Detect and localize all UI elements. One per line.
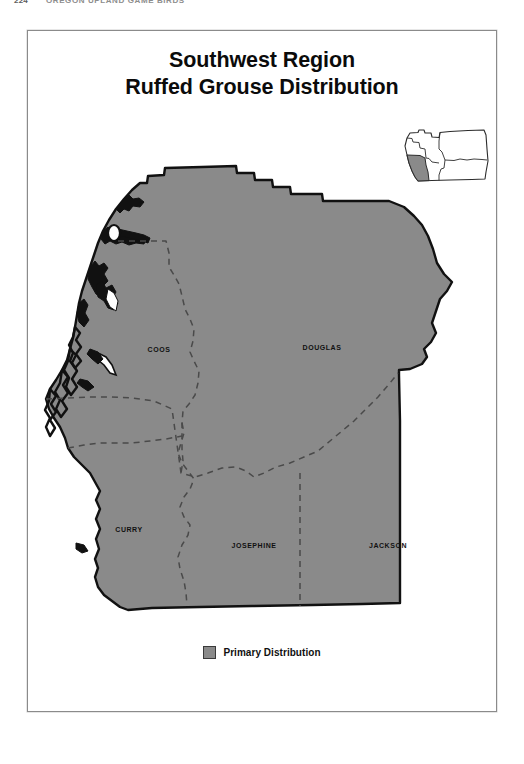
southwest-region-map: COOS DOUGLAS CURRY JOSEPHINE JACKSON [32, 121, 494, 621]
legend-swatch-primary-distribution [203, 646, 216, 659]
figure-frame: Southwest Region Ruffed Grouse Distribut… [27, 30, 497, 712]
county-label-josephine: JOSEPHINE [231, 542, 276, 549]
legend-label-primary-distribution: Primary Distribution [223, 647, 320, 658]
county-label-curry: CURRY [115, 526, 142, 533]
map-legend: Primary Distribution [28, 646, 496, 659]
county-label-jackson: JACKSON [369, 542, 407, 549]
page-header: 224 OREGON UPLAND GAME BIRDS [0, 0, 524, 8]
running-head: OREGON UPLAND GAME BIRDS [46, 0, 185, 5]
map-title-line-1: Southwest Region [169, 48, 355, 72]
county-label-douglas: DOUGLAS [303, 344, 342, 351]
map-title: Southwest Region Ruffed Grouse Distribut… [28, 47, 496, 101]
page-number: 224 [14, 0, 28, 5]
county-label-coos: COOS [148, 346, 171, 353]
map-title-line-2: Ruffed Grouse Distribution [28, 74, 496, 101]
